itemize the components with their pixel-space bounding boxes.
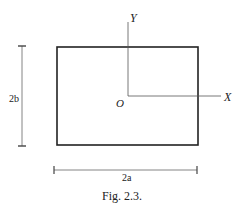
figure-diagram: Y X O 2b 2a Fig. 2.3.	[0, 0, 243, 205]
width-dimension-label: 2a	[122, 172, 132, 183]
origin-label: O	[116, 97, 124, 109]
figure-caption: Fig. 2.3.	[102, 189, 142, 203]
height-dimension-label: 2b	[9, 93, 19, 104]
y-axis-label: Y	[130, 11, 138, 25]
x-axis-label: X	[223, 90, 232, 104]
